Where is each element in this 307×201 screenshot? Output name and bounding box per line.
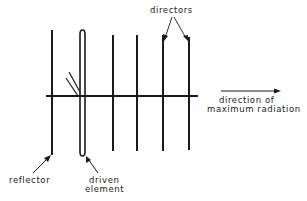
- directors-pointer-2: [174, 17, 186, 38]
- radiation-arrowhead: [274, 89, 281, 94]
- driven-element: [80, 30, 85, 156]
- direction-label-line2: maximum radiation: [207, 104, 301, 114]
- directors-pointer-1: [165, 17, 172, 38]
- feed-line-2: [66, 78, 78, 96]
- driven-label-line2: element: [85, 184, 124, 194]
- reflector-label: reflector: [9, 175, 50, 185]
- feed-line-1: [69, 72, 80, 92]
- directors-arrowhead-2: [183, 35, 188, 41]
- driven-element-pointer: [88, 159, 98, 173]
- directors-label: directors: [150, 5, 193, 15]
